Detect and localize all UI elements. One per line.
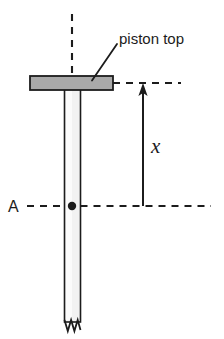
point-a-label: A <box>8 198 19 215</box>
point-a-dot-marker <box>68 202 76 210</box>
piston-top-plate <box>30 76 113 90</box>
piston-diagram: piston top A x <box>0 0 224 339</box>
displacement-label: x <box>150 134 161 158</box>
diagram-canvas: piston top A x <box>0 0 224 339</box>
leader-line-piston-top <box>92 44 117 81</box>
piston-top-label: piston top <box>119 30 184 47</box>
